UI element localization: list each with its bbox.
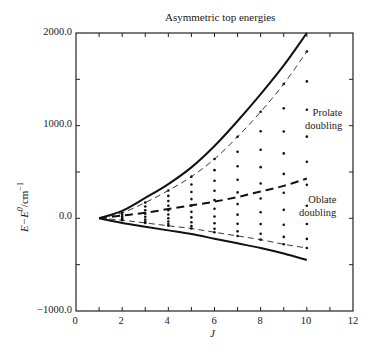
x-tick-label: 8 xyxy=(250,315,270,326)
annotation-line: Prolate xyxy=(305,106,342,119)
x-tick-label: 10 xyxy=(296,315,316,326)
oblate-doubling-annotation: Oblate doubling xyxy=(299,193,336,219)
y-tick-label: 1000.0 xyxy=(2,118,72,129)
plot-area xyxy=(0,0,375,353)
x-tick-label: 0 xyxy=(65,315,85,326)
prolate-doubling-annotation: Prolate doubling xyxy=(305,106,342,132)
x-tick-label: 12 xyxy=(343,315,363,326)
x-tick-label: 4 xyxy=(157,315,177,326)
x-tick-label: 2 xyxy=(111,315,131,326)
y-axis-label-unit: /cm xyxy=(18,191,30,208)
annotation-line: Oblate xyxy=(299,193,336,206)
annotation-line: doubling xyxy=(305,119,342,132)
plot-frame xyxy=(76,33,353,311)
annotation-line: doubling xyxy=(299,206,336,219)
y-axis-label-sup: 0 xyxy=(16,207,25,211)
y-axis-label-main: E−E xyxy=(18,211,30,232)
y-tick-label: −1000.0 xyxy=(2,304,72,315)
energy-level-dots xyxy=(121,50,308,249)
y-tick-label: 0.0 xyxy=(2,210,72,221)
y-tick-label: 2000.0 xyxy=(2,26,72,37)
y-axis-label-unit-sup: −1 xyxy=(16,182,25,191)
y-axis-label: E−E0/cm−1 xyxy=(16,182,30,232)
chart-title: Asymmetric top energies xyxy=(165,11,275,23)
data-series xyxy=(99,33,307,260)
x-tick-label: 6 xyxy=(204,315,224,326)
x-axis-label: J xyxy=(210,327,215,339)
